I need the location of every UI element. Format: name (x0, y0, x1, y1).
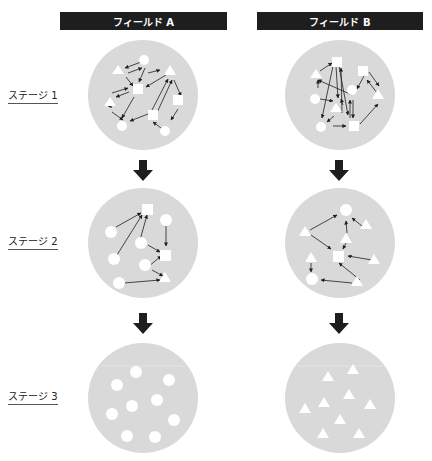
field-b-stage-3 (285, 343, 395, 453)
diagram-canvas (0, 0, 432, 461)
field-a-stage-3 (88, 343, 198, 453)
